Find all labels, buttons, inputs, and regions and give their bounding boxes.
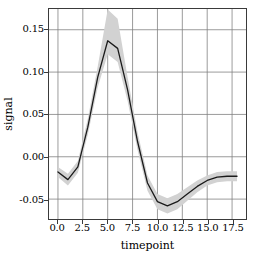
plot-area [48, 8, 247, 220]
x-tick-label: 15.0 [197, 223, 218, 233]
y-tick-mark [44, 157, 48, 158]
x-tick-mark [107, 220, 108, 224]
x-tick-label: 0.0 [49, 223, 64, 233]
y-tick-mark [44, 29, 48, 30]
x-axis-label: timepoint [48, 240, 247, 252]
x-tick-label: 5.0 [100, 223, 115, 233]
y-tick-mark [44, 114, 48, 115]
x-tick-label: 12.5 [172, 223, 193, 233]
y-tick-mark [44, 72, 48, 73]
x-axis-tick-labels: 0.02.55.07.510.012.515.017.5 [0, 223, 265, 237]
x-tick-mark [158, 220, 159, 224]
chart-figure: -0.050.000.050.100.15 signal 0.02.55.07.… [0, 0, 265, 268]
y-axis-label-container: signal [2, 0, 16, 228]
x-tick-label: 7.5 [125, 223, 140, 233]
y-axis-label: signal [3, 97, 15, 130]
x-tick-mark [57, 220, 58, 224]
x-tick-label: 10.0 [147, 223, 168, 233]
plot-svg [49, 9, 246, 219]
x-tick-label: 2.5 [75, 223, 90, 233]
x-tick-mark [233, 220, 234, 224]
x-tick-label: 17.5 [222, 223, 243, 233]
x-tick-mark [208, 220, 209, 224]
x-tick-mark [183, 220, 184, 224]
x-tick-mark [82, 220, 83, 224]
x-tick-mark [132, 220, 133, 224]
y-tick-mark [44, 200, 48, 201]
